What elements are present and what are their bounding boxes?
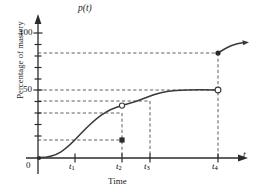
origin-dot bbox=[37, 156, 41, 160]
x-tick-label-t1-sub: 1 bbox=[72, 164, 75, 171]
x-tick-label-t2: t2 bbox=[116, 161, 122, 171]
marker-open-circle-t4 bbox=[215, 87, 221, 93]
vertical-guide-lines bbox=[122, 53, 218, 158]
learning-curve-segment-1 bbox=[40, 112, 122, 158]
learning-curve-main bbox=[40, 121, 103, 158]
axis-lines bbox=[26, 22, 240, 174]
curve-before-discontinuity bbox=[40, 90, 217, 158]
x-axis-name: Time bbox=[108, 176, 127, 186]
marker-filled-dot-t4 bbox=[215, 50, 220, 55]
marker-filled-square-t2 bbox=[119, 137, 124, 142]
y-tick-label-100: 100 bbox=[19, 27, 33, 37]
curve-after-discontinuity bbox=[218, 43, 244, 53]
graph-figure: p(t) t Percentage of mastery Time 100 50… bbox=[0, 0, 257, 191]
x-tick-label-t2-sub: 2 bbox=[119, 164, 122, 171]
curve-end-arrowhead bbox=[242, 40, 249, 45]
x-tick-label-t3: t3 bbox=[144, 161, 150, 171]
plot-canvas bbox=[0, 0, 257, 191]
y-axis-arrowhead bbox=[35, 14, 42, 24]
x-tick-label-t3-sub: 3 bbox=[147, 164, 150, 171]
y-axis-name: Percentage of mastery bbox=[15, 5, 25, 115]
horizontal-guide-lines bbox=[38, 53, 218, 140]
x-tick-label-t1: t1 bbox=[69, 161, 75, 171]
origin-label: 0 bbox=[26, 160, 31, 170]
marker-open-circle-t2 bbox=[119, 103, 124, 108]
y-axis-label: p(t) bbox=[78, 3, 92, 13]
x-axis-label: t bbox=[243, 150, 246, 160]
x-tick-label-t4-sub: 4 bbox=[215, 164, 218, 171]
y-tick-label-50: 50 bbox=[23, 84, 32, 94]
x-tick-label-t4: t4 bbox=[212, 161, 218, 171]
